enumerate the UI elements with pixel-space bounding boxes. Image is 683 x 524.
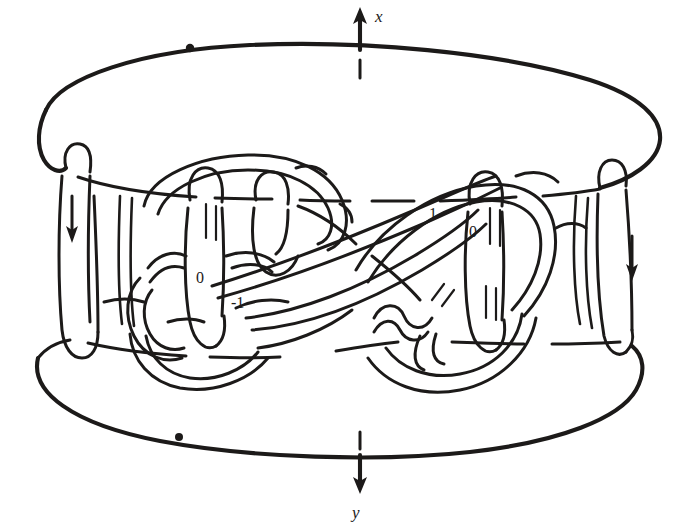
- coefficient-label-left-minus-one: -1: [231, 294, 244, 311]
- shell-top-rim: [46, 44, 660, 188]
- knot-diagram-canvas: x y: [0, 0, 683, 524]
- left-tube-line-a: [119, 196, 122, 324]
- left-clasp-right-side: [222, 208, 224, 316]
- bottom-basepoint-dot: [175, 433, 183, 441]
- right-wall-bottom-turn: [626, 330, 633, 352]
- right-clasp-group: [368, 172, 536, 392]
- shell-bottom-inner-right2: [552, 342, 620, 344]
- band-down-b: [218, 188, 500, 298]
- left-wall-group: [59, 144, 134, 358]
- right-tube-line-b: [586, 198, 592, 328]
- misc-arc-i: [168, 319, 204, 322]
- right-lower-hook-b: [433, 334, 444, 364]
- shell-bottom-inner-left2: [210, 357, 280, 358]
- right-arch-outer: [356, 184, 556, 316]
- shell-inner-rim-left: [78, 177, 196, 197]
- coefficient-label-right-zero: 0: [469, 223, 477, 240]
- coefficient-label-left-zero: 0: [196, 269, 204, 286]
- misc-arc-j: [104, 299, 144, 302]
- right-arch-inner: [368, 201, 541, 310]
- top-basepoint-dot: [186, 44, 194, 52]
- right-clasp-right-side: [502, 212, 504, 320]
- left-arch-inner: [158, 170, 332, 244]
- axis-label-y: y: [350, 503, 360, 522]
- left-clasp2-inner: [276, 210, 288, 254]
- shell-left-shoulder: [39, 110, 66, 171]
- right-arch-group: [356, 184, 556, 316]
- shell-bottom-rim: [37, 346, 642, 457]
- misc-arc-h: [516, 173, 558, 182]
- shell-inner-rim-right2: [543, 189, 600, 196]
- right-diag-hatch-b: [442, 290, 454, 306]
- shell-bottom-inner-right: [452, 342, 524, 344]
- left-wall-inner-return: [94, 196, 98, 332]
- misc-arc-a: [226, 253, 274, 262]
- axis-bottom-group: y: [350, 432, 367, 522]
- axis-top-group: x: [353, 7, 383, 78]
- right-tube-line-a: [574, 196, 580, 324]
- left-wall-hook: [65, 144, 91, 172]
- coefficient-label-right-one: 1: [429, 205, 437, 222]
- figure-root: x y: [0, 0, 683, 524]
- axis-label-x: x: [374, 7, 383, 26]
- left-wall-outer: [59, 176, 98, 358]
- left-tube-line-b: [131, 198, 134, 326]
- right-lower-hook-a: [415, 336, 424, 370]
- right-wall-group: [574, 160, 638, 354]
- right-clasp-bottom-turn: [496, 320, 505, 350]
- right-diag-hatch-a: [432, 284, 444, 300]
- left-swirl-b: [150, 267, 184, 282]
- misc-arc-g: [556, 224, 586, 229]
- left-clasp-bottom-turn: [216, 316, 225, 346]
- right-wall-outer: [597, 194, 626, 354]
- left-wall-inner: [89, 176, 91, 322]
